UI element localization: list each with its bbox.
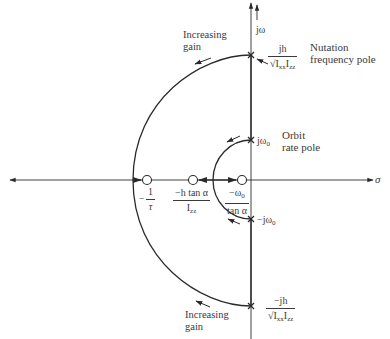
zero-h <box>189 176 198 185</box>
nutation-pole-label: Nutation frequency pole <box>310 41 376 65</box>
zero-omega-value: −ω0 tan α <box>225 187 249 217</box>
orbit-pole-label: Orbit rate pole <box>282 129 320 153</box>
zero-h-value: −h tan α Izz <box>173 187 210 217</box>
increasing-gain-bottom-label: Increasing gain <box>185 309 229 333</box>
orbit-neg-value: −jω0 <box>257 214 276 229</box>
zero-tau <box>143 176 152 185</box>
zero-tau-value: 1 τ <box>146 186 155 213</box>
orbit-arrow-bottom <box>228 219 240 224</box>
zero-tau-prefix: − <box>139 193 145 205</box>
gain-arrow-top <box>195 58 211 64</box>
nutation-pos-value: jh √IxxIzz <box>268 43 297 73</box>
real-axis-label: σ <box>375 173 380 185</box>
imag-axis-label: jω <box>256 24 265 36</box>
nutation-label-pointer <box>257 59 268 64</box>
orbit-pos-value: jω0 <box>257 135 270 150</box>
nutation-neg-value: −jh √IxxIzz <box>266 295 295 325</box>
orbit-arrow-top <box>227 136 240 142</box>
zero-omega <box>238 176 247 185</box>
gain-arrow-bottom <box>196 301 210 307</box>
increasing-gain-top-label: Increasing gain <box>183 29 227 53</box>
